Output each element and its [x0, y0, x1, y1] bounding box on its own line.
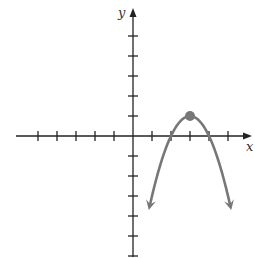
coordinate-plane: x y [0, 0, 255, 258]
x-axis-label: x [246, 139, 254, 154]
y-axis-label: y [117, 5, 126, 20]
axes [16, 8, 252, 257]
vertex-point [185, 111, 195, 121]
parabola-curve [150, 116, 230, 204]
y-axis-arrow-icon [130, 8, 137, 17]
curve-arrowheads [146, 199, 234, 210]
